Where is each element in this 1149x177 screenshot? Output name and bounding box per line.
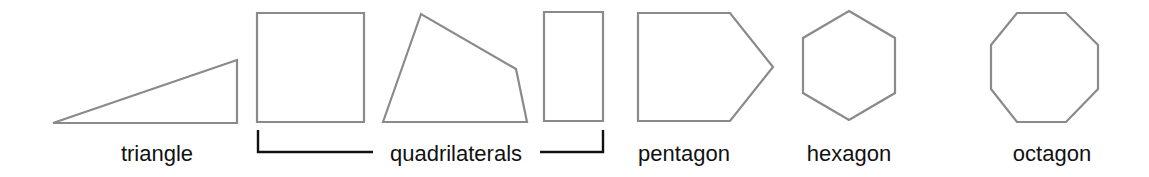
pentagon-label: pentagon	[638, 141, 730, 166]
rectangle-shape	[544, 12, 603, 121]
irregular-quadrilateral-shape	[383, 14, 527, 122]
hexagon-shape	[803, 11, 895, 120]
pentagon-shape	[638, 13, 773, 121]
triangle-label: triangle	[121, 141, 193, 166]
polygon-diagram: triangle quadrilaterals pentagon hexagon…	[0, 0, 1149, 177]
triangle-shape	[53, 60, 237, 123]
quadrilaterals-bracket-right	[540, 130, 603, 152]
square-shape	[257, 13, 364, 122]
hexagon-label: hexagon	[807, 141, 891, 166]
octagon-shape	[991, 13, 1098, 122]
octagon-label: octagon	[1013, 141, 1091, 166]
quadrilaterals-label: quadrilaterals	[390, 141, 522, 166]
quadrilaterals-bracket-left	[258, 130, 373, 152]
